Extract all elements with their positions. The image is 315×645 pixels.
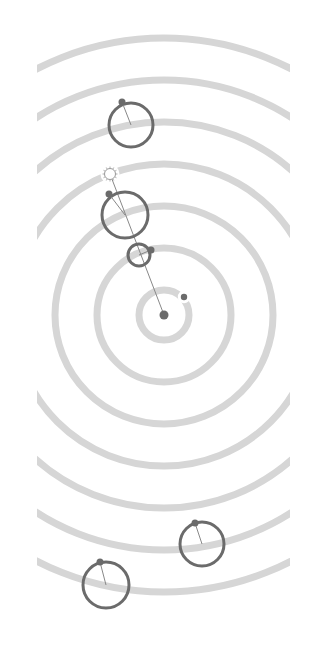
epicycle-radius-line — [109, 194, 125, 215]
orbital-diagram — [0, 0, 315, 645]
planet-dot-icon — [97, 559, 104, 566]
epicycle-ring-2 — [102, 191, 148, 239]
planet-dot-icon — [119, 99, 126, 106]
inner-planet-icon — [181, 294, 187, 300]
planet-dot-icon — [106, 191, 113, 198]
orbit-ring-4 — [0, 122, 315, 508]
planet-dot-icon — [148, 247, 155, 254]
sun-disc — [105, 169, 116, 180]
planet-dot-icon — [192, 520, 199, 527]
concentric-orbits — [0, 38, 315, 592]
central-body-icon — [160, 311, 169, 320]
epicycle-radius-line — [122, 102, 131, 125]
